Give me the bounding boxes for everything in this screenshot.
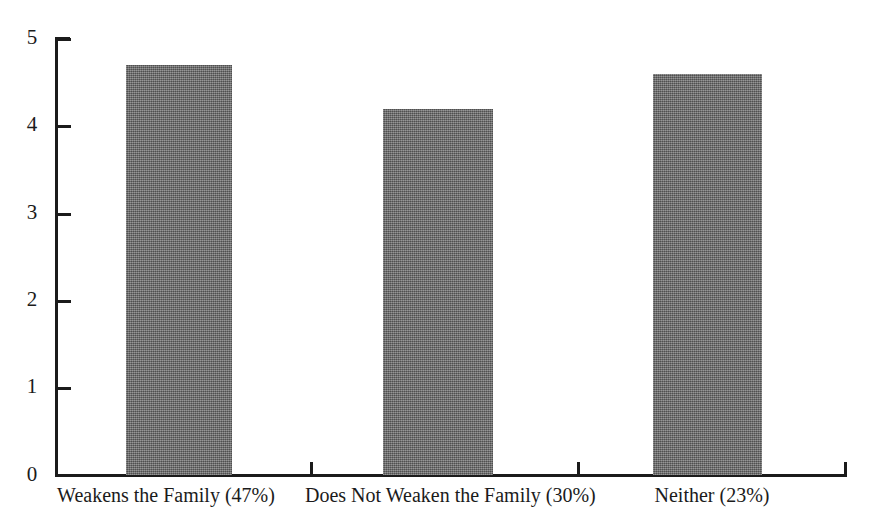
- y-tick-label-2: 2: [18, 289, 46, 310]
- y-tick-mark-4: [58, 125, 71, 128]
- bar-does-not-weaken-the-family: [383, 109, 493, 475]
- y-tick-mark-3: [58, 213, 71, 216]
- y-axis-line: [55, 37, 58, 477]
- y-tick-label-0: 0: [18, 464, 46, 485]
- y-tick-mark-2: [58, 300, 71, 303]
- y-tick-label-4: 4: [18, 114, 46, 135]
- bar-neither: [653, 74, 762, 475]
- x-separator-tick-2: [577, 462, 580, 477]
- y-tick-label-1: 1: [18, 376, 46, 397]
- bar-weakens-the-family: [126, 65, 232, 475]
- x-axis-label-does-not-weaken-the-family: Does Not Weaken the Family (30%): [305, 484, 575, 507]
- x-axis-label-weakens-the-family: Weakens the Family (47%): [34, 484, 298, 507]
- y-tick-mark-5: [58, 38, 71, 41]
- x-axis-label-neither: Neither (23%): [612, 484, 812, 507]
- y-tick-mark-1: [58, 387, 71, 390]
- x-axis-right-cap: [844, 462, 847, 477]
- bar-chart: 5 4 3 2 1 0 Weakens the Family (47%) Doe…: [0, 0, 876, 528]
- y-tick-label-5: 5: [18, 27, 46, 48]
- y-tick-label-3: 3: [18, 202, 46, 223]
- x-separator-tick-1: [310, 462, 313, 477]
